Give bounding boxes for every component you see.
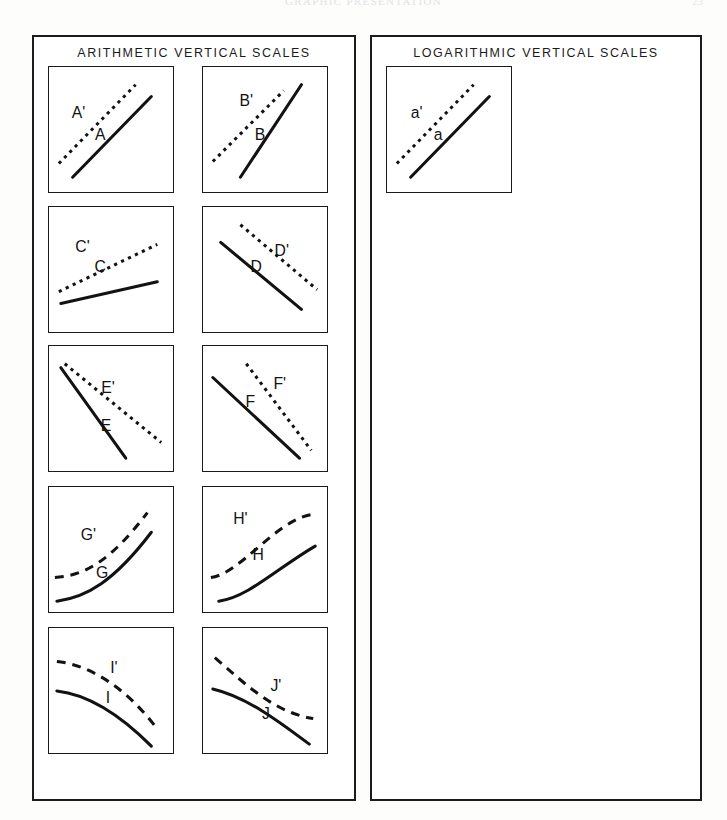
chart-cell-D: D'D <box>202 206 328 333</box>
curve-solid-I <box>57 691 151 746</box>
curve-label-E: E <box>101 417 111 434</box>
curve-dashed-E <box>65 364 161 443</box>
curve-label-C-prime: C' <box>75 238 89 255</box>
chart-cell-H: H'H <box>202 486 328 613</box>
curve-label-J-prime: J' <box>270 677 281 694</box>
chart-cell-A: A'A <box>48 66 174 193</box>
chart-cell-C: C'C <box>48 206 174 333</box>
curve-solid-a <box>411 97 490 178</box>
curve-label-F-prime: F' <box>273 375 286 392</box>
chart-cell-E: E'E <box>48 345 174 472</box>
curve-solid-D <box>221 242 302 309</box>
curve-label-D: D <box>250 258 261 275</box>
section-title-logarithmic: LOGARITHMIC VERTICAL SCALES <box>372 46 700 60</box>
curve-solid-E <box>61 368 126 459</box>
curve-label-I-prime: I' <box>110 659 117 676</box>
curve-solid-H <box>219 546 315 601</box>
section-logarithmic: LOGARITHMIC VERTICAL SCALES a'a <box>370 35 702 801</box>
curve-label-F: F <box>245 393 255 410</box>
section-title-arithmetic: ARITHMETIC VERTICAL SCALES <box>34 46 354 60</box>
curve-label-a: a <box>434 126 443 143</box>
curve-label-B-prime: B' <box>240 92 254 109</box>
curve-label-E-prime: E' <box>101 379 115 396</box>
curve-label-G-prime: G' <box>81 526 96 543</box>
curve-label-A-prime: A' <box>72 104 86 121</box>
chart-cell-G: G'G <box>48 486 174 613</box>
curve-label-A: A <box>95 126 106 143</box>
curve-label-C: C <box>94 258 105 275</box>
chart-cell-a: a'a <box>386 66 512 193</box>
curve-label-a-prime: a' <box>411 104 423 121</box>
chart-cell-I: I'I <box>48 627 174 754</box>
chart-cell-B: B'B <box>202 66 328 193</box>
curve-label-H-prime: H' <box>233 510 247 527</box>
chart-cell-J: J'J <box>202 627 328 754</box>
page-number: 23 <box>692 0 703 7</box>
chart-cell-F: F'F <box>202 345 328 472</box>
running-head: GRAPHIC PRESENTATION <box>0 0 727 7</box>
curve-solid-J <box>213 689 309 744</box>
curve-label-J: J <box>262 705 270 722</box>
curve-solid-F <box>213 378 300 459</box>
curve-label-I: I <box>106 689 110 706</box>
curve-label-D-prime: D' <box>275 242 289 259</box>
curve-label-B: B <box>255 126 266 143</box>
curve-label-H: H <box>252 546 263 563</box>
curve-label-G: G <box>96 564 108 581</box>
section-arithmetic: ARITHMETIC VERTICAL SCALES A'AB'BC'CD'DE… <box>32 35 356 801</box>
